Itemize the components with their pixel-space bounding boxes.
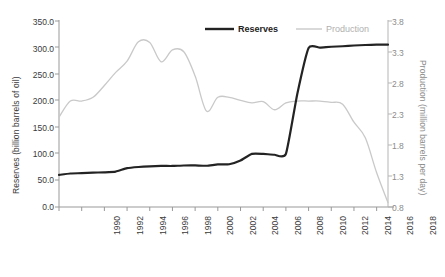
y-axis-left-ticks	[55, 21, 59, 207]
y-axis-right-ticks	[388, 21, 392, 207]
plot-area	[0, 0, 445, 277]
line-series-reserves	[59, 45, 388, 175]
line-series-production	[59, 40, 388, 203]
chart-figure: Reserves (billion barrels of oil) Produc…	[0, 0, 445, 277]
x-axis-ticks	[59, 207, 377, 211]
